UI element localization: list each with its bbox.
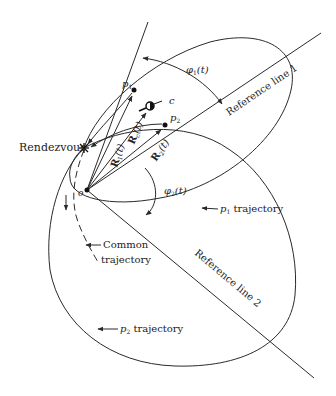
p1-trajectory-label: p1 trajectory [220,203,284,215]
c-label: c [169,95,175,106]
p2-trajectory-label: p2 trajectory [120,323,184,335]
phi2-label: φ2(t) [164,185,187,197]
satellite-c-icon [139,101,162,111]
p1-label: p1 [122,78,132,90]
rendezvous-diagram: Rendezvous o p1 p2 c R1(t) Rc(t) R2(t) φ… [0,0,336,396]
origin-label: o [78,188,84,198]
phi2-arc [145,168,156,215]
p1-point [132,88,137,93]
Rc-label: Rc(t) [126,120,146,146]
p2-label: p2 [170,112,180,124]
rendezvous-label: Rendezvous [19,141,86,154]
reference-line-2-label: Reference line 2 [193,247,264,309]
R2-label: R2(t) [149,137,173,164]
p2-point [163,123,168,128]
reference-line-1-label: Reference line 1 [224,62,299,118]
phi1-label: φ1(t) [186,64,209,76]
p1-trajectory-pointer [202,208,218,209]
common-trajectory-label-line2: trajectory [101,254,151,265]
reference-line-2 [87,190,314,378]
phi1-arc [143,58,222,104]
origin-point [85,188,90,193]
common-trajectory-label-line1: Common [103,239,149,250]
